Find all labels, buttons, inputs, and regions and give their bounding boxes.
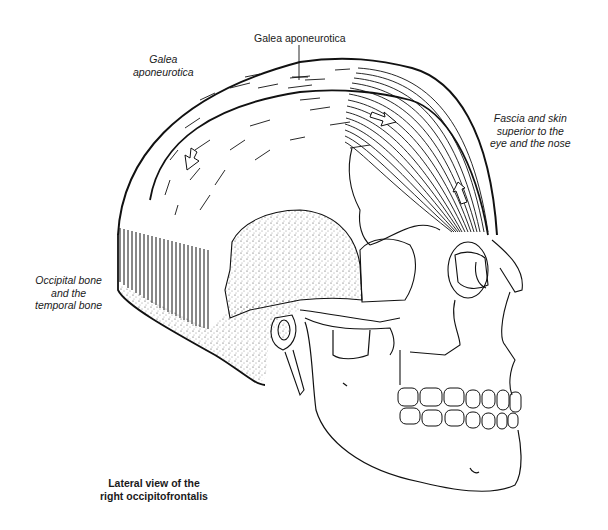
label-fascia-and-skin: Fascia and skin superior to the eye and … xyxy=(490,112,571,150)
styloid-process xyxy=(285,350,304,395)
label-occipital-temporal-bone: Occipital bone and the temporal bone xyxy=(35,274,102,312)
label-galea-aponeurotica-left: Galea aponeurotica xyxy=(133,53,194,78)
skull-illustration xyxy=(0,0,608,530)
teeth xyxy=(398,388,521,429)
figure-caption: Lateral view of the right occipitofronta… xyxy=(100,477,208,502)
label-galea-aponeurotica-top: Galea aponeurotica xyxy=(254,32,346,45)
mandible xyxy=(305,322,521,491)
anatomy-figure: Galea aponeurotica Galea aponeurotica Fa… xyxy=(0,0,608,530)
maxilla xyxy=(400,292,515,395)
skull xyxy=(118,148,440,385)
orbit xyxy=(448,240,522,298)
